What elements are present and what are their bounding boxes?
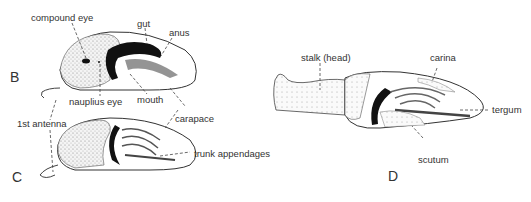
label-gut: gut [137, 19, 150, 29]
label-carapace: carapace [175, 114, 214, 124]
panel-label-b: B [10, 70, 19, 84]
barnacle-larva-diagram: B C D compound eye gut anus nauplius eye… [0, 0, 531, 202]
label-compound-eye: compound eye [31, 13, 93, 23]
panel-label-c: C [12, 170, 22, 184]
label-stalk-head: stalk (head) [301, 53, 351, 63]
label-trunk-appendages: trunk appendages [194, 149, 270, 159]
label-anus: anus [169, 28, 190, 38]
label-scutum: scutum [418, 155, 449, 165]
label-tergum: tergum [492, 105, 522, 115]
specimen-b [41, 32, 196, 98]
label-carina: carina [430, 53, 456, 63]
label-1st-antenna: 1st antenna [17, 119, 67, 129]
label-nauplius-eye: nauplius eye [69, 97, 122, 107]
label-mouth: mouth [137, 95, 163, 105]
panel-label-d: D [388, 169, 398, 183]
specimen-d [274, 72, 484, 129]
